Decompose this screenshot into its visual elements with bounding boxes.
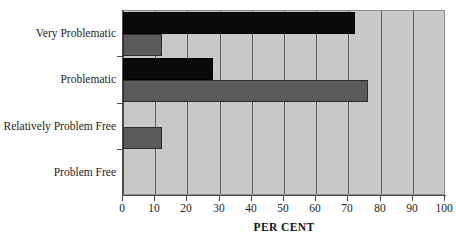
x-axis-tick-label: 20 [180,202,192,215]
bar [123,34,162,56]
x-tick [315,196,316,201]
gridline-50 [284,11,285,194]
x-tick [380,196,381,201]
y-tick [117,149,122,150]
x-axis-tick-label: 90 [406,202,418,215]
x-tick [122,196,123,201]
x-tick [251,196,252,201]
x-axis-title: PER CENT [122,221,446,233]
x-axis-tick-label: 40 [245,202,257,215]
x-axis-tick-label: 50 [277,202,289,215]
x-tick [219,196,220,201]
bar [123,80,368,102]
y-axis-label: Problematic [60,73,116,85]
x-tick [412,196,413,201]
x-axis-tick-label: 80 [374,202,386,215]
y-tick [117,56,122,57]
x-axis-tick-label: 10 [148,202,160,215]
y-axis-label: Problem Free [54,166,116,178]
x-axis-tick-label: 70 [341,202,353,215]
x-axis-line [122,195,446,196]
gridline-20 [187,11,188,194]
bar [123,58,213,80]
y-axis-line [122,10,123,196]
gridline-60 [316,11,317,194]
gridline-80 [381,11,382,194]
chart-title [0,0,456,1]
bar [123,127,162,149]
x-axis-tick-label: 60 [309,202,321,215]
x-tick [347,196,348,201]
bar-chart: Very ProblematicProblematicRelatively Pr… [0,0,456,242]
x-tick [444,196,445,201]
x-tick [283,196,284,201]
x-axis-tick-label: 30 [213,202,225,215]
plot-area [122,10,445,195]
y-axis-label: Very Problematic [36,27,116,39]
y-tick [117,103,122,104]
x-axis-tick-label: 0 [119,202,125,215]
bar [123,12,355,34]
gridline-90 [413,11,414,194]
gridline-40 [252,11,253,194]
gridline-70 [348,11,349,194]
gridline-30 [220,11,221,194]
x-tick [154,196,155,201]
x-tick [186,196,187,201]
x-axis-tick-label: 100 [435,202,452,215]
y-axis-label: Relatively Problem Free [4,120,116,132]
